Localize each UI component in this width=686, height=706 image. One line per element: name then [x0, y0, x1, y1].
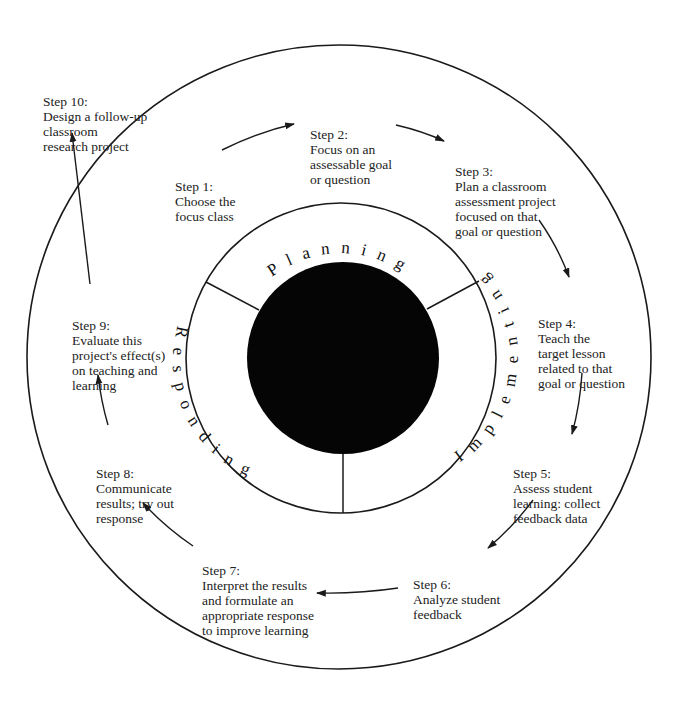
step-2: Step 2:Focus on an assessable goal or qu…: [310, 97, 392, 217]
step-5-body: Assess student learning: collect feedbac…: [513, 481, 600, 526]
step-3-title: Step 3:: [455, 164, 556, 179]
step-4-body: Teach the target lesson related to that …: [538, 331, 625, 391]
step-7: Step 7:Interpret the results and formula…: [202, 533, 314, 668]
step-5: Step 5:Assess student learning: collect …: [513, 436, 600, 556]
step-2-title: Step 2:: [310, 127, 392, 142]
step-8-body: Communicate results; try out response: [96, 481, 174, 526]
step-9-body: Evaluate this project's effect(s) on tea…: [72, 333, 165, 393]
phase-divider-planning-responding: [206, 282, 259, 310]
center-core: [247, 262, 439, 454]
step-1: Step 1:Choose the focus class: [175, 149, 235, 254]
step-2-body: Focus on an assessable goal or question: [310, 142, 392, 187]
step-9-title: Step 9:: [72, 318, 165, 333]
classroom-research-cycle-diagram: Planning Implementing Responding Step 1:…: [0, 0, 686, 706]
step-10-title: Step 10:: [43, 94, 147, 109]
arrow-step1-to-step2: [222, 124, 294, 150]
arrow-step6-to-step7: [317, 588, 398, 593]
step-3: Step 3:Plan a classroom assessment proje…: [455, 134, 556, 269]
step-6-body: Analyze student feedback: [413, 592, 500, 622]
step-4: Step 4:Teach the target lesson related t…: [538, 286, 625, 421]
step-6: Step 6:Analyze student feedback: [413, 547, 500, 652]
step-7-title: Step 7:: [202, 563, 314, 578]
step-7-body: Interpret the results and formulate an a…: [202, 578, 314, 638]
step-10: Step 10:Design a follow-up classroom res…: [43, 64, 147, 184]
step-6-title: Step 6:: [413, 577, 500, 592]
arrow-step2-to-step3: [396, 125, 444, 141]
step-3-body: Plan a classroom assessment project focu…: [455, 179, 556, 239]
step-1-body: Choose the focus class: [175, 194, 235, 224]
phase-divider-planning-implementing: [427, 281, 479, 309]
step-10-body: Design a follow-up classroom research pr…: [43, 109, 147, 154]
step-8: Step 8:Communicate results; try out resp…: [96, 436, 174, 556]
step-8-title: Step 8:: [96, 466, 174, 481]
step-9: Step 9:Evaluate this project's effect(s)…: [72, 288, 165, 423]
phase-label-implementing: Implementing: [451, 263, 522, 466]
step-5-title: Step 5:: [513, 466, 600, 481]
step-1-title: Step 1:: [175, 179, 235, 194]
step-4-title: Step 4:: [538, 316, 625, 331]
